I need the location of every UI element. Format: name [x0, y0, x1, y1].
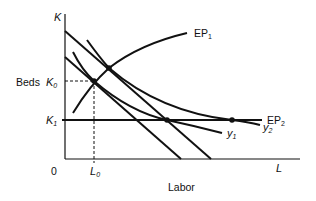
- tangency-point-ep1-y2: [106, 65, 112, 71]
- k0-label: K0: [46, 76, 57, 89]
- y1-label: y1: [226, 127, 237, 140]
- y2-isoquant: [87, 40, 260, 125]
- isocost-line-lower: [65, 57, 181, 159]
- y-axis-symbol: K: [54, 11, 62, 23]
- y-axis-title: Beds: [16, 76, 40, 88]
- ep1-label: EP1: [194, 27, 212, 40]
- k1-label: K1: [46, 114, 57, 127]
- ep2-label: EP2: [267, 114, 285, 127]
- x-axis-title: Labor: [168, 181, 195, 193]
- x-axis-symbol: L: [276, 162, 282, 174]
- tangency-point-ep2-y2: [229, 117, 235, 123]
- origin-label: 0: [51, 165, 57, 177]
- expansion-path-diagram: K Beds K0 K1 0 L0 L Labor EP1 EP2 y1 y2: [0, 0, 316, 201]
- l0-label: L0: [90, 165, 100, 178]
- tangency-point-ep2-y1: [164, 117, 170, 123]
- tangency-point-ep1-y1: [91, 78, 97, 84]
